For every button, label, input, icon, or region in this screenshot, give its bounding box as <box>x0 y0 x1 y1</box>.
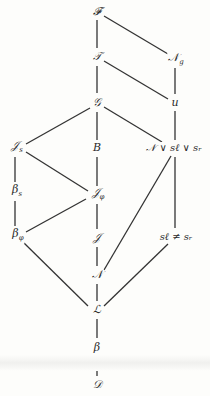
node-T: 𝒯 <box>92 51 102 63</box>
edge-NvSlvSr-N <box>104 156 171 270</box>
scan-artifact <box>0 355 210 371</box>
node-beta-phi: βφ <box>11 228 24 244</box>
node-beta-s: βs <box>11 184 23 200</box>
lattice-diagram: 𝓕 𝒯 𝒩g 𝒢 u 𝒥s B 𝒩 ∨ sℓ ∨ sᵣ βs 𝒥φ βφ 𝒥 s… <box>0 0 210 396</box>
node-sl-neq-sr: sℓ ≠ sᵣ <box>159 231 194 243</box>
edge-F-Ng <box>104 16 168 54</box>
node-label: 𝒩 <box>92 268 103 281</box>
node-B: B <box>92 142 102 154</box>
node-subscript: g <box>179 58 183 66</box>
node-N: 𝒩 <box>91 269 104 281</box>
node-subscript: s <box>18 190 22 198</box>
node-label: sℓ ≠ sᵣ <box>160 231 193 242</box>
edge-Jphi-betaphi <box>26 199 86 232</box>
node-label: u <box>171 96 178 109</box>
node-J-phi: 𝒥φ <box>91 187 106 203</box>
edge-G-NvSlvSr <box>104 107 162 142</box>
node-J: 𝒥 <box>92 232 102 244</box>
edge-G-Js <box>26 108 90 144</box>
node-label: 𝒢 <box>93 96 101 109</box>
node-label: ℒ <box>93 303 101 316</box>
node-u: u <box>170 97 179 109</box>
node-label: 𝒩 <box>168 51 179 64</box>
node-beta: β <box>93 342 101 354</box>
node-label: 𝒥 <box>11 139 19 152</box>
edge-Js-Jphi <box>26 152 88 191</box>
edge-betaphi-L <box>24 243 88 306</box>
node-label: B <box>93 141 101 154</box>
node-L: ℒ <box>92 304 102 316</box>
node-label: β <box>94 341 100 354</box>
node-label: 𝒥 <box>93 231 101 244</box>
node-label: 𝒩 ∨ sℓ ∨ sᵣ <box>146 142 201 153</box>
node-D: 𝒟 <box>92 379 103 391</box>
node-subscript: φ <box>19 234 24 242</box>
node-label: 𝒥 <box>92 186 100 199</box>
node-subscript: s <box>19 146 23 154</box>
node-Js: 𝒥s <box>10 140 24 156</box>
node-G: 𝒢 <box>92 97 102 109</box>
node-label: 𝓕 <box>93 5 101 18</box>
node-F: 𝓕 <box>92 6 102 18</box>
node-N-or-sl-or-sr: 𝒩 ∨ sℓ ∨ sᵣ <box>145 142 202 154</box>
node-Ng: 𝒩g <box>167 52 184 68</box>
edge-T-u <box>104 61 168 99</box>
node-subscript: φ <box>100 193 105 201</box>
node-label: 𝒯 <box>93 50 101 63</box>
node-label: 𝒟 <box>93 378 102 391</box>
